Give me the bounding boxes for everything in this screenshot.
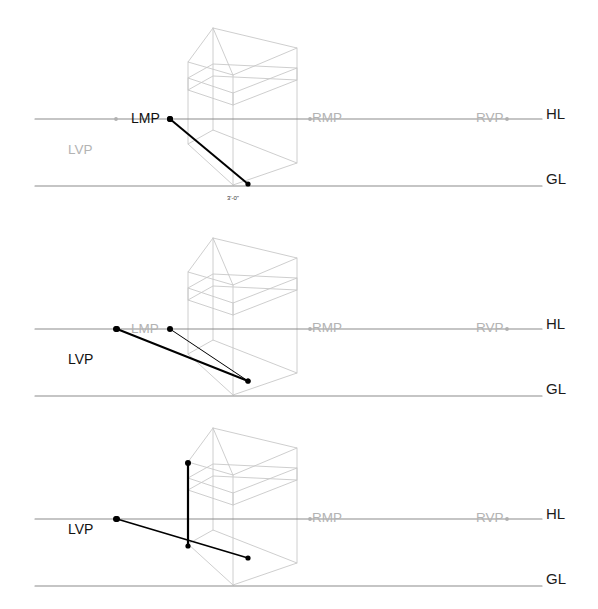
box-floor-front-edges <box>188 354 297 395</box>
box-roof-ridge <box>213 238 233 285</box>
construction-endpoint-start-lmp-to-ground-convergence[interactable] <box>167 326 173 332</box>
box-roof-ridge <box>213 28 233 75</box>
box-roof-back-edges <box>188 238 297 272</box>
right-measuring-point-label: RMP <box>312 110 342 125</box>
left-vanishing-point-label: LVP <box>68 351 93 367</box>
box-floor-front-edges <box>188 544 297 585</box>
horizon-line-label: HL <box>546 105 565 122</box>
panel-2: HLGLLVPLMPRMPRVP <box>0 210 598 410</box>
box-floor-back-edges <box>188 340 297 373</box>
dimension-label: 3'-0" <box>227 195 239 201</box>
box-wireframe-group <box>188 238 297 395</box>
construction-lines-group <box>114 460 251 561</box>
right-measuring-point-label: RMP <box>312 510 342 525</box>
box-floor-back-edges <box>188 530 297 563</box>
left-measuring-point-label: LMP <box>131 110 160 126</box>
construction-endpoint-end-vertical-height-measure[interactable] <box>185 543 190 548</box>
box-roof-front-edges <box>188 48 297 75</box>
horizon-line-label: HL <box>546 315 565 332</box>
left-measuring-point-label: LMP <box>131 321 159 336</box>
left-vanishing-point-marker[interactable] <box>114 117 118 121</box>
ground-line-label: GL <box>546 380 566 397</box>
ground-line-label: GL <box>546 170 566 187</box>
construction-endpoint-end-lmp-to-ground-measure[interactable] <box>245 181 250 186</box>
left-vanishing-point-label: LVP <box>68 521 93 537</box>
construction-endpoint-end-lvp-to-base-corner[interactable] <box>245 555 250 560</box>
construction-line-lvp-to-base-corner <box>117 519 248 558</box>
construction-endpoint-start-lvp-to-base-corner[interactable] <box>114 516 120 522</box>
box-roof-back-edges <box>188 428 297 462</box>
panel-3: HLGLLVPRMPRVP <box>0 400 598 609</box>
panel-1: HLGLLVPLMPRMPRVP3'-0" <box>0 0 598 210</box>
perspective-drawing-sheet: HLGLLVPLMPRMPRVP3'-0"HLGLLVPLMPRMPRVPHLG… <box>0 0 598 609</box>
right-vanishing-point-label: RVP <box>476 110 504 125</box>
construction-lines-group <box>167 116 251 187</box>
construction-endpoint-start-lvp-to-ground-convergence[interactable] <box>114 326 120 332</box>
box-wireframe-group <box>188 428 297 585</box>
construction-line-lmp-to-ground-measure <box>170 119 248 184</box>
right-vanishing-point-label: RVP <box>476 510 504 525</box>
construction-endpoint-end-lmp-to-ground-convergence[interactable] <box>245 378 250 383</box>
box-roof-front-edges <box>188 448 297 475</box>
horizon-line-label: HL <box>546 505 565 522</box>
construction-endpoint-start-vertical-height-measure[interactable] <box>185 460 191 466</box>
box-roof-front-edges <box>188 258 297 285</box>
right-vanishing-point-marker[interactable] <box>505 517 509 521</box>
ground-line-label: GL <box>546 570 566 587</box>
left-vanishing-point-label: LVP <box>68 142 93 157</box>
box-wireframe-group <box>188 28 297 185</box>
box-roof-ridge <box>213 428 233 475</box>
right-vanishing-point-label: RVP <box>476 320 504 335</box>
reference-lines-group: HLGLLVPLMPRMPRVP <box>35 105 566 187</box>
right-vanishing-point-marker[interactable] <box>505 327 509 331</box>
right-measuring-point-label: RMP <box>312 320 342 335</box>
box-roof-back-edges <box>188 28 297 62</box>
construction-endpoint-start-lmp-to-ground-measure[interactable] <box>167 116 173 122</box>
right-vanishing-point-marker[interactable] <box>505 117 509 121</box>
